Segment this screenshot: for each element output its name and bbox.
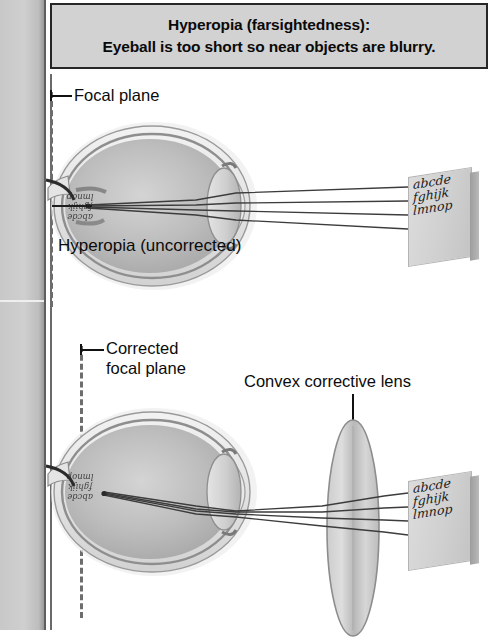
card-letters: abcde fghijk lmnop [413,173,452,217]
caption-uncorrected: Hyperopia (uncorrected) [58,236,241,255]
title-line-1: Hyperopia (farsightedness): [168,14,370,36]
diagram-corrected: Corrected focal plane Convex corrective … [0,330,490,630]
card-side-edge [470,171,479,260]
title-line-2: Eyeball is too short so near objects are… [103,36,436,58]
target-card-uncorrected: abcde fghijk lmnop [404,166,490,276]
card-letters: abcde fghijk lmnop [413,477,452,521]
title-banner: Hyperopia (farsightedness): Eyeball is t… [50,3,488,69]
target-card-corrected: abcde fghijk lmnop [404,470,490,580]
card-side-edge [470,475,479,564]
diagram-uncorrected: Focal plane [0,74,490,304]
